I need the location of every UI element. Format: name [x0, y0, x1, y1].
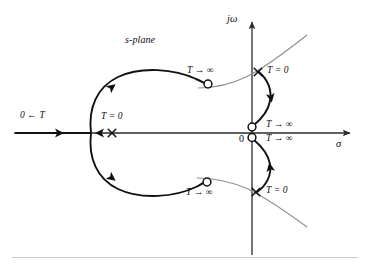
- origin-label: 0: [239, 134, 244, 144]
- zero-origin-upper-label-text: T → ∞: [266, 119, 293, 129]
- zero-lower-left-marker: [203, 178, 211, 186]
- jomega-axis-label-text: jω: [227, 13, 238, 24]
- zero-origin-lower-label-text: T → ∞: [266, 133, 293, 143]
- zero-origin-lower-marker: [248, 134, 256, 142]
- origin-label-text: 0: [239, 133, 244, 144]
- jomega-axis-label: jω: [227, 14, 238, 25]
- pole-real-axis-label: T = 0: [101, 112, 123, 122]
- locus-branch-upper-right: [254, 72, 271, 125]
- root-locus-figure: s-plane jω σ 0 0 ← T T = 0 T → ∞ T → ∞ T…: [0, 0, 370, 272]
- zero-lower-left-label: T → ∞: [186, 188, 213, 198]
- s-plane-label: s-plane: [125, 35, 155, 45]
- sigma-axis-label-text: σ: [336, 138, 341, 149]
- axis-group: [14, 22, 350, 255]
- pole-upper-label-text: T = 0: [267, 65, 289, 75]
- zero-lower-left-label-text: T → ∞: [186, 187, 213, 197]
- zero-upper-left-label: T → ∞: [187, 66, 214, 76]
- pole-lower-label: T = 0: [266, 186, 288, 196]
- locus-oval-upper: [90, 70, 206, 133]
- real-axis-branch-label: 0 ← T: [20, 111, 45, 121]
- zero-origin-upper-marker: [248, 123, 256, 131]
- pole-upper-label: T = 0: [267, 66, 289, 76]
- s-plane-label-text: s-plane: [125, 34, 155, 45]
- pole-real-axis-label-text: T = 0: [101, 111, 123, 121]
- pole-markers: [108, 68, 262, 196]
- zero-origin-lower-label: T → ∞: [266, 134, 293, 144]
- root-locus-canvas: [0, 0, 370, 272]
- zero-upper-left-label-text: T → ∞: [187, 65, 214, 75]
- pole-lower-label-text: T = 0: [266, 185, 288, 195]
- zero-upper-left-marker: [204, 80, 212, 88]
- real-axis-branch-label-text: 0 ← T: [20, 110, 45, 120]
- sigma-axis-label: σ: [336, 139, 341, 150]
- zero-origin-upper-label: T → ∞: [266, 120, 293, 130]
